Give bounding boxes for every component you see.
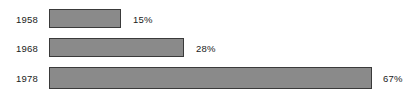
bar-1968 [49, 38, 184, 57]
bar-1958 [49, 9, 121, 28]
bar-row: 1958 15% [0, 9, 414, 29]
bar-chart: 1958 15% 1968 28% 1978 67% [0, 0, 414, 96]
bar-row: 1978 67% [0, 67, 414, 89]
value-label-1958: 15% [133, 15, 153, 25]
value-label-1968: 28% [196, 44, 216, 54]
bar-row: 1968 28% [0, 38, 414, 58]
category-label-1968: 1968 [0, 44, 38, 54]
value-label-1978: 67% [383, 74, 403, 84]
category-label-1958: 1958 [0, 15, 38, 25]
category-label-1978: 1978 [0, 74, 38, 84]
bar-1978 [49, 67, 372, 89]
